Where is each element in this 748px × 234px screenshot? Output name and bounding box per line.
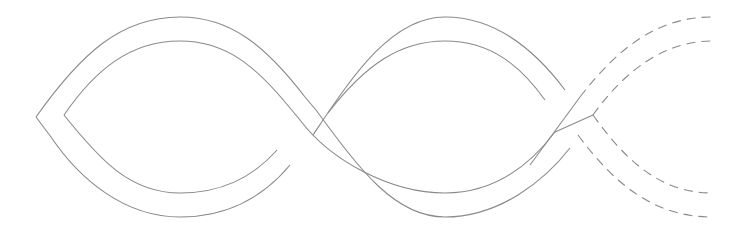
band1-inner-edge [64,41,555,193]
dashed-continuation-bottom-inner [593,115,712,193]
braid-diagram: Twisted band (braid) diagram [0,0,748,234]
band2-inner-edge-right [328,41,545,113]
dashed-continuation-bottom-outer [578,135,712,217]
dashed-continuation-top-inner [593,41,712,115]
band-tip [36,117,51,137]
band2-inner-edge-left [64,115,277,193]
band1-outer-edge [36,17,570,217]
band2-outer-edge-left [51,137,290,217]
braid-svg [0,0,748,234]
band2-outer-edge-right [313,17,565,135]
dashed-continuation-top-outer [580,17,712,97]
right-crossing-up-outer [530,97,580,165]
